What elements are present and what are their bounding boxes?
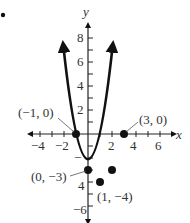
point-0-neg3	[84, 166, 92, 174]
x-tick-label: −4	[31, 138, 45, 153]
leader-lines	[58, 118, 138, 176]
point-2-neg3	[108, 166, 116, 174]
y-tick-label: 4	[78, 178, 85, 193]
x-tick-label: 2	[108, 138, 115, 153]
bullet-dot	[1, 13, 5, 17]
y-tick-label: 6	[77, 54, 84, 69]
label-0-neg3: (0, −3)	[31, 169, 67, 184]
point-1-neg4	[96, 178, 104, 186]
y-tick-label: 4	[77, 78, 84, 93]
x-tick-label: −2	[55, 138, 69, 153]
label-3-0: (3, 0)	[139, 112, 167, 127]
parabola-graph: y x −4 −2 2 4 6 8 6 4 2 − 4 −6 (−1, 0) (…	[0, 0, 190, 223]
label-neg1-0: (−1, 0)	[18, 105, 54, 120]
x-tick-label: 6	[155, 138, 162, 153]
y-axis-label: y	[81, 4, 89, 19]
y-ticks	[88, 38, 93, 206]
x-tick-label: 4	[130, 138, 137, 153]
label-1-neg4: (1, −4)	[97, 189, 133, 204]
y-tick-label: 8	[77, 30, 84, 45]
y-tick-label: 2	[77, 102, 84, 117]
y-tick-label: −	[74, 150, 81, 165]
x-axis-label: x	[175, 127, 182, 142]
y-tick-label: −6	[73, 202, 87, 217]
